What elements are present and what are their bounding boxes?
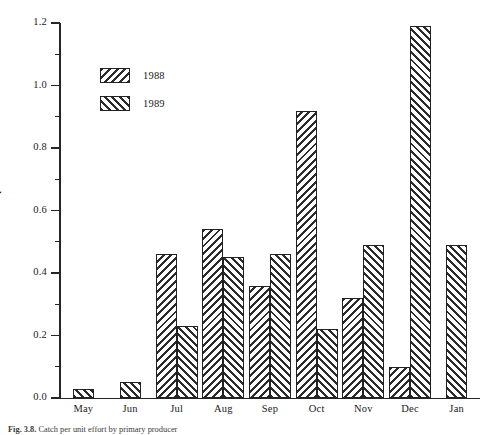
y-tick-label: 1.2 <box>13 16 47 27</box>
y-tick-label: 1.0 <box>13 79 47 90</box>
bar-aug-1989 <box>223 257 244 398</box>
bar-sep-1988 <box>249 286 270 399</box>
x-tick-label-jul: Jul <box>170 403 183 414</box>
bar-jun-1989 <box>120 382 141 398</box>
bar-nov-1989 <box>363 245 384 398</box>
x-tick-label-aug: Aug <box>214 403 233 414</box>
y-tick-major <box>51 397 60 398</box>
legend-label-1989: 1989 <box>143 98 165 109</box>
y-tick-major <box>51 272 60 273</box>
y-tick-label: 0.4 <box>13 266 47 277</box>
y-tick-label: 0.0 <box>13 391 47 402</box>
x-tick-label-dec: Dec <box>401 403 419 414</box>
bar-aug-1988 <box>202 229 223 398</box>
x-tick-label-sep: Sep <box>262 403 278 414</box>
figure-caption: Fig. 3.8. Catch per unit effort by prima… <box>8 424 478 435</box>
caption-number: Fig. 3.8. <box>8 425 36 434</box>
y-tick-major <box>51 210 60 211</box>
bar-jul-1988 <box>156 254 177 398</box>
bar-sep-1989 <box>270 254 291 398</box>
bar-nov-1988 <box>342 298 363 398</box>
legend-label-1988: 1988 <box>143 70 165 81</box>
x-tick-label-may: May <box>73 403 93 414</box>
bar-dec-1989 <box>410 26 431 398</box>
bar-may-1989 <box>73 389 94 398</box>
y-tick-major <box>51 335 60 336</box>
bar-oct-1989 <box>317 329 338 398</box>
bar-oct-1988 <box>296 111 317 399</box>
x-tick-label-jan: Jan <box>449 403 464 414</box>
x-tick-label-jun: Jun <box>122 403 137 414</box>
y-tick-major <box>51 147 60 148</box>
legend-swatch-1989 <box>100 96 130 111</box>
legend-item-1988: 1988 <box>100 68 165 83</box>
bar-jan-1989 <box>446 245 467 398</box>
y-tick-major <box>51 22 60 23</box>
chart-legend: 19881989 <box>100 68 165 124</box>
x-tick-label-oct: Oct <box>309 403 325 414</box>
y-tick-label: 0.2 <box>13 329 47 340</box>
figure-container: Catch per haul 0.00.20.40.60.81.01.2 May… <box>0 0 487 435</box>
legend-swatch-1988 <box>100 68 130 83</box>
bar-dec-1988 <box>389 367 410 398</box>
legend-item-1989: 1989 <box>100 96 165 111</box>
y-tick-major <box>51 85 60 86</box>
y-tick-label: 0.8 <box>13 141 47 152</box>
x-tick-label-nov: Nov <box>354 403 373 414</box>
caption-body: Catch per unit effort by primary produce… <box>38 425 177 434</box>
bar-jul-1989 <box>177 326 198 398</box>
y-tick-label: 0.6 <box>13 204 47 215</box>
